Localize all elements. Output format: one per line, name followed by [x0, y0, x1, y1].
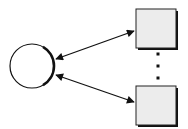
diagram-svg: [0, 0, 188, 129]
hub-circle: [10, 44, 54, 88]
bidirectional-arrow-box-top: [56, 31, 134, 59]
edges-group: [56, 31, 134, 102]
ellipsis-dot: [157, 65, 160, 68]
box-top: [136, 9, 178, 50]
nodes-group: [10, 9, 178, 127]
ellipsis-dot: [157, 53, 160, 56]
ellipsis-dot: [157, 77, 160, 80]
ellipsis-group: [157, 53, 160, 80]
diagram-canvas: [0, 0, 188, 129]
box-bottom: [136, 86, 178, 127]
bidirectional-arrow-box-bottom: [56, 75, 134, 102]
